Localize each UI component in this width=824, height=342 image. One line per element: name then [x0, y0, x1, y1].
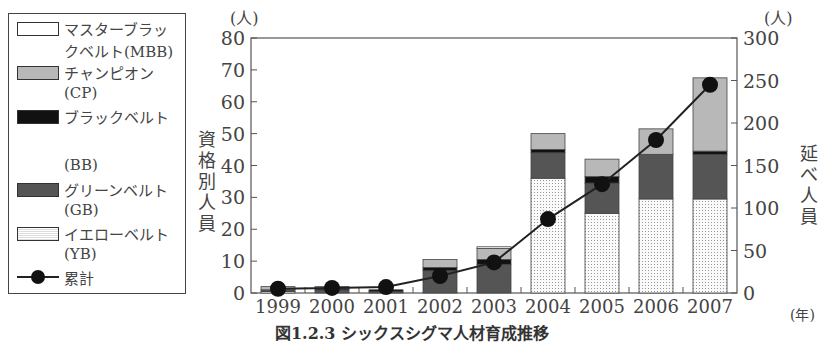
left-axis-title-char: 格 [198, 150, 216, 171]
right-axis-tick-label: 100 [743, 197, 779, 219]
right-axis-title-char: べ [800, 164, 818, 185]
left-axis-unit: (人) [230, 9, 258, 28]
bar-segment-yb [585, 213, 619, 293]
bar-segment-gb [693, 154, 727, 199]
plot-area: 01020304050607080050100150200250300(人)(人… [198, 9, 818, 323]
right-axis-tick-label: 50 [743, 240, 767, 262]
right-axis-tick-label: 0 [743, 282, 755, 304]
left-axis-title-char: 人 [198, 192, 216, 213]
right-axis-unit: (人) [764, 9, 792, 28]
x-axis-tick-label: 2001 [363, 296, 409, 317]
left-axis-title-char: 別 [198, 171, 216, 192]
bar-segment-gb [531, 153, 565, 179]
right-axis-title-char: 延 [800, 143, 818, 164]
left-axis-tick-label: 0 [233, 282, 245, 304]
chart-caption: 図1.2.3 シックスシグマ人材育成推移 [0, 320, 824, 342]
left-axis-title-char: 資 [198, 129, 216, 150]
cumulative-point-marker [324, 280, 340, 296]
cumulative-point-marker [540, 211, 556, 227]
left-axis-tick-label: 50 [221, 123, 245, 145]
left-axis-tick-label: 70 [221, 59, 245, 81]
right-axis-title-char: 人 [800, 185, 818, 206]
bar-segment-yb [693, 199, 727, 293]
x-axis-tick-label: 2005 [579, 296, 625, 317]
chart-plot: 01020304050607080050100150200250300(人)(人… [0, 0, 824, 342]
bar-segment-bb [693, 151, 727, 154]
left-axis-title-char: 員 [198, 213, 216, 234]
cumulative-point-marker [486, 254, 502, 270]
bar-segment-yb [531, 178, 565, 293]
left-axis-tick-label: 80 [221, 27, 245, 49]
cumulative-point-marker [270, 281, 286, 297]
cumulative-point-marker [594, 176, 610, 192]
left-axis-tick-label: 60 [221, 91, 245, 113]
bar-segment-gb [639, 154, 673, 199]
bar-segment-cp [531, 134, 565, 150]
x-axis-tick-label: 2002 [417, 296, 463, 317]
right-axis-tick-label: 300 [743, 27, 779, 49]
left-axis-tick-label: 10 [221, 250, 245, 272]
cumulative-point-marker [648, 132, 664, 148]
right-axis-tick-label: 150 [743, 155, 779, 177]
left-axis-tick-label: 20 [221, 218, 245, 240]
x-axis-tick-label: 2000 [309, 296, 355, 317]
x-axis-tick-label: 2007 [687, 296, 733, 317]
x-axis-tick-label: 1999 [255, 296, 301, 317]
right-axis-title-char: 員 [800, 206, 818, 227]
bar-segment-mbb [477, 247, 511, 249]
x-axis-tick-label: 2004 [525, 296, 571, 317]
bar-segment-bb [531, 150, 565, 153]
x-axis-tick-label: 2006 [633, 296, 679, 317]
cumulative-point-marker [702, 77, 718, 93]
right-axis-tick-label: 250 [743, 70, 779, 92]
right-axis-tick-label: 200 [743, 112, 779, 134]
cumulative-point-marker [432, 268, 448, 284]
left-axis-tick-label: 40 [221, 155, 245, 177]
cumulative-point-marker [378, 279, 394, 295]
bar-segment-cp [423, 260, 457, 268]
bar-segment-yb [639, 199, 673, 293]
x-axis-tick-label: 2003 [471, 296, 517, 317]
left-axis-tick-label: 30 [221, 186, 245, 208]
